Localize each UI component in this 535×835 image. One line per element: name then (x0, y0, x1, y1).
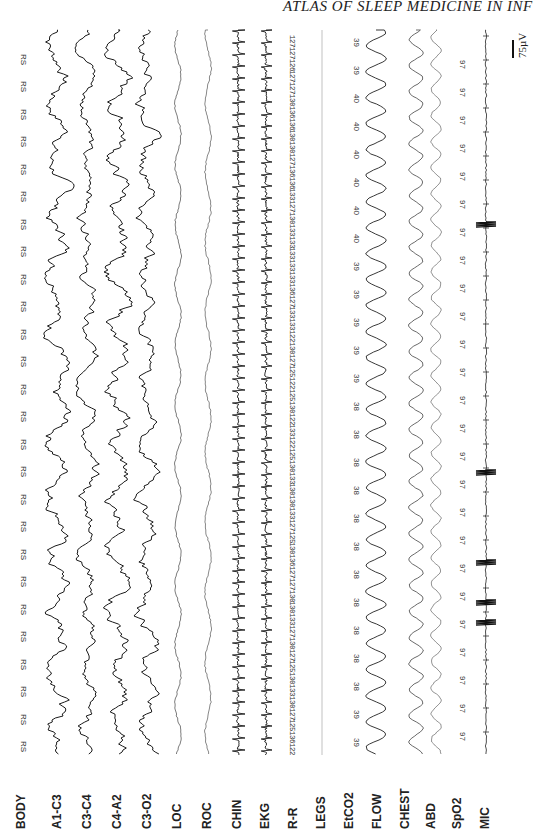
rr-interval-value: 133 (288, 472, 296, 484)
channel-label-chin: CHIN (230, 800, 244, 829)
etco2-value: 39 (352, 374, 361, 383)
rr-interval-value: 127 (288, 295, 296, 307)
rr-interval-value: 130 (288, 129, 296, 141)
spo2-value: 97 (458, 396, 467, 405)
mic-artifact-0 (476, 222, 496, 227)
rr-interval-value: 122 (288, 413, 296, 425)
channel-label-c4a2: C4-A2 (110, 794, 124, 829)
rr-interval-value: 127 (288, 153, 296, 165)
etco2-value: 39 (352, 38, 361, 47)
etco2-value: 38 (352, 486, 361, 495)
etco2-value: 38 (352, 430, 361, 439)
trace-abd (431, 30, 442, 754)
rr-interval-value: 130 (288, 401, 296, 413)
etco2-value: 40 (352, 178, 361, 187)
spo2-value: 97 (458, 172, 467, 181)
rr-interval-value: 133 (288, 259, 296, 271)
etco2-value: 38 (352, 514, 361, 523)
channel-label-roc: ROC (200, 802, 214, 829)
channel-label-spo2: SpO2 (450, 798, 464, 829)
rr-interval-value: 127 (288, 35, 296, 47)
rr-interval-value: 127 (288, 82, 296, 94)
rr-interval-value: 125 (288, 531, 296, 543)
spo2-value: 97 (458, 592, 467, 601)
rr-interval-value: 127 (288, 200, 296, 212)
rr-interval-value: 127 (288, 649, 296, 661)
rr-interval-value: 130 (288, 672, 296, 684)
body-position-label: RS (19, 356, 28, 367)
etco2-value: 40 (352, 122, 361, 131)
rr-interval-value: 133 (288, 318, 296, 330)
etco2-value: 38 (352, 458, 361, 467)
channel-label-loc: LOC (170, 804, 184, 829)
rr-interval-value: 122 (288, 436, 296, 448)
rr-interval-value: 125 (288, 660, 296, 672)
channel-label-abd: ABD (424, 803, 438, 829)
channel-label-legs: LEGS (314, 796, 328, 829)
channel-label-a1c3: A1-C3 (50, 794, 64, 829)
rr-interval-value: 133 (288, 684, 296, 696)
rr-interval-value: 130 (288, 696, 296, 708)
channel-label-c3c4: C3-C4 (80, 794, 94, 829)
body-position-label: RS (19, 631, 28, 642)
etco2-value: 38 (352, 542, 361, 551)
body-position-label: RS (19, 493, 28, 504)
rr-interval-value: 127 (288, 578, 296, 590)
rr-interval-value: 133 (288, 306, 296, 318)
body-position-label: RS (19, 658, 28, 669)
body-position-label: RS (19, 328, 28, 339)
scale-label: 75µV (516, 33, 528, 58)
spo2-value: 97 (458, 256, 467, 265)
body-position-label: RS (19, 383, 28, 394)
rr-interval-value: 125 (288, 719, 296, 731)
body-position-label: RS (19, 218, 28, 229)
spo2-value: 97 (458, 648, 467, 657)
rr-interval-value: 127 (288, 566, 296, 578)
rr-interval-value: 133 (288, 188, 296, 200)
etco2-value: 38 (352, 598, 361, 607)
rr-interval-value: 125 (288, 389, 296, 401)
trace-c3-o2 (134, 30, 162, 754)
rr-interval-value: 136 (288, 118, 296, 130)
trace-ekg (261, 30, 272, 755)
channel-label-chest: CHEST (398, 788, 412, 829)
body-position-label: RS (19, 576, 28, 587)
trace-loc (175, 30, 182, 754)
spo2-value: 97 (458, 536, 467, 545)
trace-chest (409, 30, 424, 754)
etco2-value: 39 (352, 710, 361, 719)
etco2-value: 39 (352, 66, 361, 75)
spo2-value: 97 (458, 340, 467, 349)
rr-interval-value: 130 (288, 460, 296, 472)
body-position-label: RS (19, 686, 28, 697)
etco2-value: 38 (352, 654, 361, 663)
etco2-value: 40 (352, 150, 361, 159)
spo2-value: 97 (458, 312, 467, 321)
body-position-label: RS (19, 81, 28, 92)
etco2-value: 39 (352, 346, 361, 355)
rr-interval-value: 133 (288, 507, 296, 519)
body-position-label: RS (19, 163, 28, 174)
rr-interval-value: 133 (288, 271, 296, 283)
rr-interval-value: 130 (288, 601, 296, 613)
rr-interval-value: 130 (288, 542, 296, 554)
spo2-value: 97 (458, 480, 467, 489)
rr-interval-value: 127 (288, 625, 296, 637)
spo2-value: 97 (458, 452, 467, 461)
channel-label-rr: R-R (286, 808, 300, 829)
rr-interval-value: 127 (288, 47, 296, 59)
rr-interval-value: 130 (288, 495, 296, 507)
rr-interval-value: 130 (288, 342, 296, 354)
trace-c3-c4 (75, 30, 99, 754)
trace-a1-c3 (44, 30, 75, 754)
body-position-label: RS (19, 521, 28, 532)
rr-interval-value: 130 (288, 637, 296, 649)
rr-interval-value: 122 (288, 330, 296, 342)
etco2-value: 38 (352, 402, 361, 411)
spo2-value: 97 (458, 368, 467, 377)
rr-interval-value: 130 (288, 590, 296, 602)
channel-label-mic: MIC (478, 807, 492, 829)
rr-interval-value: 126 (288, 59, 296, 71)
body-position-label: RS (19, 603, 28, 614)
etco2-value: 39 (352, 290, 361, 299)
